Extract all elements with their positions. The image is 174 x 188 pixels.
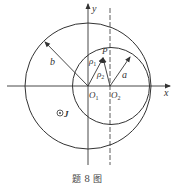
rho1-sub: 1 [93,61,96,67]
figure-caption: 题 8 图 [72,174,101,184]
label-rho2: ρ2 [96,69,104,80]
y-axis-label: y [91,3,97,14]
label-o1: O1 [89,90,99,101]
label-rho1: ρ1 [88,56,96,67]
diagram-canvas: y x b a P ρ1 ρ2 O1 O2 J 题 8 图 [0,0,174,188]
label-p: P [101,46,108,56]
label-o2: O2 [111,90,121,101]
rho2-sub: 2 [101,74,104,80]
radius-a-arrow [110,57,130,86]
label-j: J [63,109,69,119]
x-axis-label: x [163,87,169,98]
rho2-arrow [103,58,110,86]
label-b: b [50,56,55,67]
o1-sub: 1 [96,95,99,101]
label-a: a [122,69,127,80]
current-dot [59,112,61,114]
o2-sub: 2 [118,95,121,101]
